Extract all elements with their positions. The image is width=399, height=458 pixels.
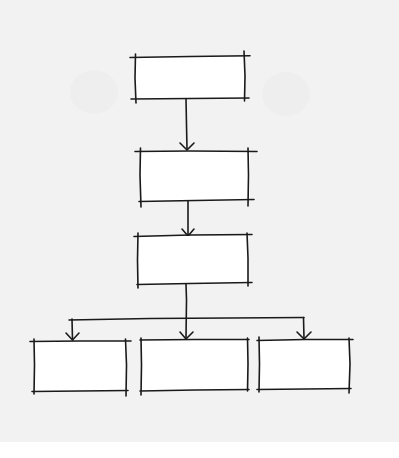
flowchart-box-level-4-right: [257, 337, 353, 393]
flowchart-diagram: [0, 0, 399, 458]
branch-connector: [66, 284, 311, 340]
flowchart-box-level-4-left: [30, 339, 131, 396]
flowchart-box-level-4-center: [140, 338, 249, 395]
flowchart-box-level-3: [134, 233, 252, 288]
arrow-connector: [182, 201, 194, 236]
arrow-connector: [180, 99, 194, 150]
flowchart-box-level-1: [130, 51, 250, 103]
flowchart-box-level-2: [135, 148, 257, 207]
